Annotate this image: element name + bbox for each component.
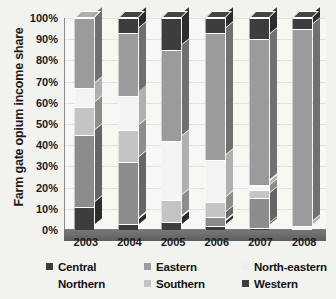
bar-segment-eastern[interactable] <box>205 33 225 160</box>
gridline <box>64 188 326 189</box>
x-axis-label-2007: 2007 <box>236 236 286 248</box>
plot-area <box>64 18 326 230</box>
bar-segment-western[interactable] <box>205 18 225 33</box>
legend-swatch-icon <box>242 280 249 287</box>
bar-segment-central[interactable] <box>249 228 269 230</box>
legend-item-central[interactable]: Central <box>46 261 144 273</box>
bar-segment-north-eastern[interactable] <box>205 160 225 202</box>
bar-segment-northern[interactable] <box>118 162 138 223</box>
bar-segment-central[interactable] <box>118 224 138 230</box>
gridline <box>64 124 326 125</box>
bar-segment-southern[interactable] <box>74 107 94 135</box>
legend-swatch-icon <box>144 263 151 270</box>
bar-segment-side <box>139 120 146 157</box>
bar-segment-southern[interactable] <box>161 200 181 221</box>
bar-segment-western[interactable] <box>118 18 138 33</box>
bar-segment-northern[interactable] <box>205 217 225 225</box>
y-axis-tick-label: 0% <box>0 224 58 236</box>
y-axis-tick-label: 50% <box>0 118 58 130</box>
bar-segment-side <box>313 18 320 220</box>
legend-swatch-icon <box>242 263 249 270</box>
bar-segment-eastern[interactable] <box>74 18 94 88</box>
bar-segment-northern[interactable] <box>249 198 269 228</box>
legend-label: Northern <box>58 278 105 290</box>
bar-segment-side <box>182 39 189 135</box>
legend-label: Eastern <box>156 261 197 273</box>
bar-segment-side <box>95 124 102 201</box>
bar-2004[interactable] <box>118 18 138 230</box>
bar-segment-northern[interactable] <box>74 135 94 207</box>
y-axis-tick-label: 60% <box>0 97 58 109</box>
bar-segment-eastern[interactable] <box>118 33 138 97</box>
bar-2005[interactable] <box>161 18 181 230</box>
legend-label: Western <box>254 278 298 290</box>
bar-2007[interactable] <box>249 18 269 230</box>
bar-segment-north-eastern[interactable] <box>74 88 94 107</box>
legend-label: Southern <box>156 278 205 290</box>
bar-2006[interactable] <box>205 18 225 230</box>
legend-swatch-icon <box>46 280 53 287</box>
bar-segment-north-eastern[interactable] <box>118 96 138 130</box>
legend-item-northern[interactable]: Northern <box>46 278 144 290</box>
bar-segment-western[interactable] <box>249 18 269 39</box>
x-axis-label-2008: 2008 <box>279 236 329 248</box>
bar-segment-southern[interactable] <box>249 190 269 198</box>
bar-segment-side <box>182 130 189 194</box>
bar-segment-eastern[interactable] <box>249 39 269 185</box>
y-axis-tick-label: 90% <box>0 33 58 45</box>
gridline <box>64 18 326 19</box>
gridline <box>64 209 326 210</box>
bar-2003[interactable] <box>74 18 94 230</box>
legend-item-southern[interactable]: Southern <box>144 278 242 290</box>
y-axis-tick-label: 80% <box>0 54 58 66</box>
legend-swatch-icon <box>144 280 151 287</box>
legend-swatch-icon <box>46 263 53 270</box>
bar-segment-side <box>226 149 233 196</box>
bar-segment-side <box>139 22 146 90</box>
legend-item-eastern[interactable]: Eastern <box>144 261 242 273</box>
x-axis-label-2005: 2005 <box>148 236 198 248</box>
bar-segment-central[interactable] <box>205 226 225 230</box>
gridline <box>64 166 326 167</box>
bar-segment-central[interactable] <box>161 222 181 230</box>
gridline <box>64 39 326 40</box>
bar-segment-north-eastern[interactable] <box>292 226 312 230</box>
bar-segment-side <box>95 7 102 82</box>
y-axis-tick-label: 70% <box>0 76 58 88</box>
bar-segment-western[interactable] <box>161 18 181 50</box>
bar-segment-central[interactable] <box>74 207 94 230</box>
gridline <box>64 103 326 104</box>
y-axis-tick-label: 10% <box>0 203 58 215</box>
bar-2008[interactable] <box>292 18 312 230</box>
y-axis-tick-label: 20% <box>0 182 58 194</box>
legend-label: Central <box>58 261 96 273</box>
bar-segment-southern[interactable] <box>205 202 225 217</box>
chart-legend: CentralEasternNorth-easternNorthernSouth… <box>46 258 336 292</box>
bar-segment-eastern[interactable] <box>161 50 181 141</box>
y-axis-tick-label: 40% <box>0 139 58 151</box>
bar-segment-side <box>270 187 277 222</box>
x-axis-label-2003: 2003 <box>61 236 111 248</box>
bar-segment-western[interactable] <box>292 18 312 29</box>
legend-item-north-eastern[interactable]: North-eastern <box>242 261 336 273</box>
chart-root: Farm gate opium income share 100%90%80%7… <box>0 0 336 299</box>
bar-segment-eastern[interactable] <box>292 29 312 226</box>
x-axis-label-2004: 2004 <box>105 236 155 248</box>
y-axis-tick-label: 100% <box>0 12 58 24</box>
bar-segment-side <box>139 86 146 125</box>
bar-segment-side <box>139 151 146 217</box>
bar-segment-side <box>270 28 277 179</box>
gridline <box>64 60 326 61</box>
bar-segment-north-eastern[interactable] <box>161 141 181 200</box>
gridline <box>64 82 326 83</box>
gridline <box>64 145 326 146</box>
legend-label: North-eastern <box>254 261 327 273</box>
y-axis-tick-label: 30% <box>0 160 58 172</box>
x-axis-label-2006: 2006 <box>192 236 242 248</box>
legend-item-western[interactable]: Western <box>242 278 336 290</box>
bar-segment-southern[interactable] <box>118 130 138 162</box>
bar-segment-side <box>226 22 233 154</box>
gridline <box>64 230 326 231</box>
bar-segment-north-eastern[interactable] <box>249 186 269 190</box>
